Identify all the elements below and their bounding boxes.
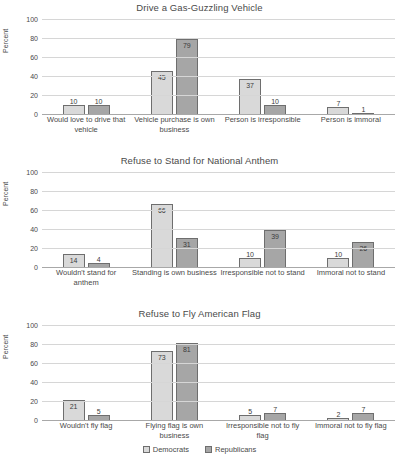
bar-democrats: 10 bbox=[239, 258, 261, 268]
chart-page: Drive a Gas-Guzzling Vehicle Percent 020… bbox=[0, 0, 399, 460]
chart-panel-1: Drive a Gas-Guzzling Vehicle Percent 020… bbox=[0, 0, 399, 153]
bar-value-label: 7 bbox=[336, 99, 340, 108]
y-axis-tick-label: 80 bbox=[14, 341, 38, 348]
gridline bbox=[42, 210, 395, 211]
chart-title: Drive a Gas-Guzzling Vehicle bbox=[0, 0, 399, 15]
legend-item: Democrats bbox=[143, 445, 189, 454]
bar-democrats: 21 bbox=[63, 400, 85, 420]
bar-value-label: 81 bbox=[183, 345, 191, 354]
bar-value-label: 10 bbox=[271, 97, 279, 106]
bar-democrats: 45 bbox=[151, 71, 173, 114]
bar-democrats: 14 bbox=[63, 254, 85, 267]
gridline bbox=[42, 76, 395, 77]
x-axis-category-label: Standing is own business bbox=[130, 268, 218, 287]
gridline bbox=[42, 401, 395, 402]
bar-group: 71 bbox=[307, 19, 395, 114]
y-axis-tick-label: 20 bbox=[14, 92, 38, 99]
x-axis-labels: Wouldn't fly flagFlying flag is own busi… bbox=[42, 421, 395, 440]
bar-group: 215 bbox=[42, 325, 130, 420]
x-axis-category-label: Vehicle purchase is own business bbox=[130, 115, 218, 134]
bar-republicans: 10 bbox=[264, 105, 286, 115]
y-axis-tick-label: 40 bbox=[14, 226, 38, 233]
x-axis-category-label: Irresponsible not to stand bbox=[219, 268, 307, 287]
bar-group: 4579 bbox=[130, 19, 218, 114]
bar-democrats: 73 bbox=[151, 351, 173, 420]
plot-area: 10104579371071 bbox=[42, 19, 395, 114]
x-axis-category-label: Person is irresponsible bbox=[219, 115, 307, 134]
bar-republicans: 31 bbox=[176, 238, 198, 267]
x-axis-labels: Would love to drive that vehicleVehicle … bbox=[42, 115, 395, 134]
bar-republicans: 26 bbox=[352, 242, 374, 267]
plot-area-wrapper: Percent 020406080100 10104579371071 Woul… bbox=[0, 15, 399, 153]
gridline bbox=[42, 19, 395, 20]
y-axis-tick-label: 60 bbox=[14, 54, 38, 61]
bar-value-label: 79 bbox=[183, 41, 191, 50]
bar-group: 3710 bbox=[219, 19, 307, 114]
y-axis-ticks: 020406080100 bbox=[14, 325, 38, 420]
gridline bbox=[42, 382, 395, 383]
bar-group: 57 bbox=[219, 325, 307, 420]
gridline bbox=[42, 344, 395, 345]
bar-republicans: 7 bbox=[352, 413, 374, 420]
bar-value-label: 37 bbox=[246, 81, 254, 90]
gridline bbox=[42, 57, 395, 58]
y-axis-title: Percent bbox=[2, 29, 9, 53]
plot-area: 144663110391026 bbox=[42, 172, 395, 267]
legend-label: Democrats bbox=[153, 445, 189, 454]
gridline bbox=[42, 248, 395, 249]
chart-panel-3: Refuse to Fly American Flag Percent 0204… bbox=[0, 306, 399, 459]
y-axis-tick-label: 20 bbox=[14, 398, 38, 405]
gridline bbox=[42, 363, 395, 364]
plot-area-wrapper: Percent 020406080100 144663110391026 Wou… bbox=[0, 168, 399, 306]
x-axis-category-label: Irresponsible not to fly flag bbox=[219, 421, 307, 440]
chart-panel-2: Refuse to Stand for National Anthem Perc… bbox=[0, 153, 399, 306]
chart-title: Refuse to Stand for National Anthem bbox=[0, 153, 399, 168]
y-axis-title: Percent bbox=[2, 335, 9, 359]
bar-value-label: 10 bbox=[334, 250, 342, 259]
bar-groups: 10104579371071 bbox=[42, 19, 395, 114]
y-axis-tick-label: 100 bbox=[14, 322, 38, 329]
legend-item: Republicans bbox=[205, 445, 256, 454]
plot-area-wrapper: Percent 020406080100 21573815727 Wouldn'… bbox=[0, 321, 399, 459]
x-axis-category-label: Wouldn't fly flag bbox=[42, 421, 130, 440]
gridline bbox=[42, 172, 395, 173]
y-axis-tick-label: 40 bbox=[14, 73, 38, 80]
bar-value-label: 39 bbox=[271, 232, 279, 241]
x-axis-labels: Wouldn't stand for anthemStanding is own… bbox=[42, 268, 395, 287]
gridline bbox=[42, 95, 395, 96]
plot-area: 21573815727 bbox=[42, 325, 395, 420]
bar-value-label: 5 bbox=[248, 407, 252, 416]
bar-group: 1039 bbox=[219, 172, 307, 267]
y-axis-tick-label: 60 bbox=[14, 360, 38, 367]
x-axis-category-label: Immoral not to stand bbox=[307, 268, 395, 287]
legend-swatch-icon bbox=[205, 446, 212, 453]
x-axis-category-label: Would love to drive that vehicle bbox=[42, 115, 130, 134]
y-axis-title: Percent bbox=[2, 182, 9, 206]
bar-value-label: 14 bbox=[70, 256, 78, 265]
y-axis-tick-label: 100 bbox=[14, 16, 38, 23]
gridline bbox=[42, 38, 395, 39]
gridline bbox=[42, 229, 395, 230]
bar-democrats: 7 bbox=[327, 107, 349, 114]
bar-groups: 144663110391026 bbox=[42, 172, 395, 267]
legend-label: Republicans bbox=[215, 445, 256, 454]
x-axis-category-label: Immoral not to fly flag bbox=[307, 421, 395, 440]
bar-group: 1010 bbox=[42, 19, 130, 114]
bar-republicans: 10 bbox=[88, 105, 110, 115]
y-axis-tick-label: 0 bbox=[14, 111, 38, 118]
bar-group: 6631 bbox=[130, 172, 218, 267]
x-axis-category-label: Wouldn't stand for anthem bbox=[42, 268, 130, 287]
y-axis-tick-label: 40 bbox=[14, 379, 38, 386]
chart-title: Refuse to Fly American Flag bbox=[0, 306, 399, 321]
bar-value-label: 2 bbox=[336, 410, 340, 419]
y-axis-ticks: 020406080100 bbox=[14, 19, 38, 114]
bar-value-label: 10 bbox=[70, 97, 78, 106]
bar-value-label: 4 bbox=[97, 255, 101, 264]
bar-democrats: 10 bbox=[63, 105, 85, 115]
chart-legend: DemocratsRepublicans bbox=[0, 445, 399, 454]
gridline bbox=[42, 191, 395, 192]
y-axis-tick-label: 0 bbox=[14, 417, 38, 424]
y-axis-tick-label: 60 bbox=[14, 207, 38, 214]
y-axis-tick-label: 80 bbox=[14, 188, 38, 195]
y-axis-tick-label: 0 bbox=[14, 264, 38, 271]
